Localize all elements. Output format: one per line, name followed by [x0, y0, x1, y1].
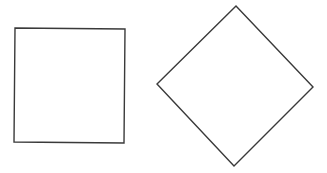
diagram-canvas: [0, 0, 327, 173]
square-shape: [14, 28, 125, 143]
diamond-shape: [157, 6, 313, 166]
